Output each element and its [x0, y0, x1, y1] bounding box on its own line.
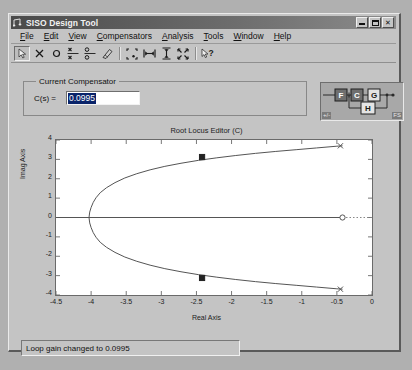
svg-text:C: C	[354, 91, 360, 100]
x-tick-label: -3.5	[120, 298, 132, 305]
help-pointer-icon[interactable]: ?	[200, 46, 216, 61]
minimize-button[interactable]	[356, 17, 368, 28]
svg-text:F: F	[339, 91, 344, 100]
feedback-block-diagram[interactable]: F C G H +/- FS	[320, 82, 404, 121]
status-bar: Loop gain changed to 0.0995	[21, 340, 240, 356]
sign-toggle-label[interactable]: +/-	[322, 112, 331, 119]
zoom-y-icon[interactable]	[158, 46, 174, 61]
complex-pole-pair-icon[interactable]	[65, 46, 81, 61]
add-zero-circle-icon[interactable]	[48, 46, 64, 61]
menu-tools[interactable]: Tools	[199, 30, 229, 43]
y-tick-label: 3	[48, 153, 52, 160]
window-title: SISO Design Tool	[26, 18, 356, 28]
menu-bar: File Edit View Compensators Analysis Too…	[11, 30, 396, 44]
x-tick-label: 0	[370, 298, 374, 305]
zoom-x-icon[interactable]	[141, 46, 157, 61]
menu-view[interactable]: View	[63, 30, 91, 43]
toolbar-separator	[119, 47, 121, 60]
x-tick-label: -2.5	[190, 298, 202, 305]
menu-edit[interactable]: Edit	[39, 30, 64, 43]
plot-title: Root Locus Editor (C)	[23, 126, 390, 135]
y-tick-label: 2	[48, 173, 52, 180]
pointer-arrow-icon[interactable]	[14, 46, 30, 61]
matlab-note-icon	[13, 18, 23, 28]
zoom-box-icon[interactable]	[124, 46, 140, 61]
x-tick-label: -2	[228, 298, 234, 305]
x-tick-label: -1.5	[261, 298, 273, 305]
complex-zero-pair-icon[interactable]	[82, 46, 98, 61]
svg-text:G: G	[371, 91, 377, 100]
screen: SISO Design Tool ✕ File Edit View Compen…	[0, 0, 412, 370]
root-locus-plot-panel: Root Locus Editor (C) Imag Axis 43210-1-…	[23, 124, 390, 331]
zoom-out-icon[interactable]	[175, 46, 191, 61]
x-tick-label: -0.5	[331, 298, 343, 305]
menu-file[interactable]: File	[15, 30, 39, 43]
siso-design-tool-window: SISO Design Tool ✕ File Edit View Compen…	[8, 13, 401, 352]
add-pole-x-icon[interactable]	[31, 46, 47, 61]
y-tick-label: -3	[46, 270, 52, 277]
y-tick-label: 4	[48, 134, 52, 141]
current-compensator-group: Current Compensator C(s) = 0.0995	[23, 81, 307, 116]
title-bar[interactable]: SISO Design Tool ✕	[11, 16, 396, 29]
x-tick-label: -1	[299, 298, 305, 305]
y-tick-label: 0	[48, 212, 52, 219]
compensator-gain-value: 0.0995	[68, 93, 96, 104]
close-button[interactable]: ✕	[382, 17, 394, 28]
locus-lower-branch	[89, 218, 343, 290]
menu-window[interactable]: Window	[228, 30, 268, 43]
y-tick-label: -4	[46, 289, 52, 296]
delete-eraser-icon[interactable]	[99, 46, 115, 61]
svg-text:?: ?	[209, 48, 214, 58]
gain-marker-lower[interactable]	[199, 275, 204, 280]
window-controls: ✕	[356, 17, 394, 28]
fs-label[interactable]: FS	[392, 112, 402, 119]
menu-file-label: ile	[25, 31, 34, 41]
gain-marker-upper[interactable]	[199, 154, 204, 159]
y-tick-label: -2	[46, 250, 52, 257]
x-tick-label: -3	[158, 298, 164, 305]
locus-upper-branch	[89, 146, 343, 218]
menu-analysis[interactable]: Analysis	[157, 30, 199, 43]
x-tick-label: -4	[88, 298, 94, 305]
toolbar-separator-2	[195, 47, 197, 60]
menu-compensators[interactable]: Compensators	[92, 30, 157, 43]
current-compensator-title: Current Compensator	[36, 77, 119, 86]
x-tick-label: -4.5	[50, 298, 62, 305]
y-tick-label: -1	[46, 231, 52, 238]
menu-help[interactable]: Help	[269, 30, 296, 43]
y-tick-label: 1	[48, 192, 52, 199]
status-message: Loop gain changed to 0.0995	[26, 344, 130, 353]
x-axis-label: Real Axis	[23, 314, 390, 321]
toolbar: ?	[11, 45, 396, 63]
x-tick-labels: -4.5-4-3.5-3-2.5-2-1.5-1-0.50	[55, 298, 373, 310]
maximize-button[interactable]	[369, 17, 381, 28]
svg-text:H: H	[365, 104, 371, 113]
compensator-gain-input[interactable]: 0.0995	[66, 91, 140, 105]
zero-open-circle[interactable]	[340, 215, 345, 220]
plot-axes[interactable]	[55, 139, 373, 296]
y-axis-label: Imag Axis	[19, 149, 26, 179]
cs-label: C(s) =	[34, 94, 56, 103]
y-tick-labels: 43210-1-2-3-4	[31, 139, 52, 296]
